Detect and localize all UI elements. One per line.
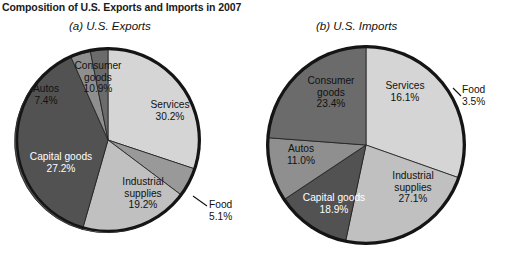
pie-b-label-food: Food 3.5%: [462, 84, 504, 107]
pie-b-food-leader-line: [453, 88, 461, 96]
pie-chart-imports: [0, 0, 506, 262]
pie-b-slice-consumer-goods: [268, 47, 366, 145]
figure-container: Composition of U.S. Exports and Imports …: [0, 0, 506, 262]
